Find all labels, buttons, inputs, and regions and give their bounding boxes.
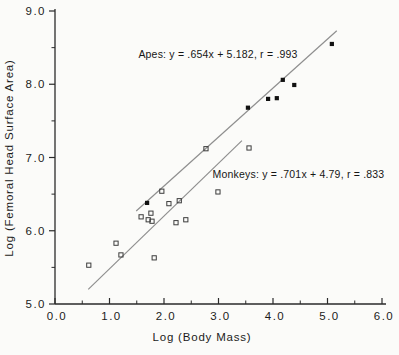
x-axis: 0.01.02.03.04.05.06.0 <box>47 298 395 322</box>
monkeys-data-point <box>149 211 153 215</box>
x-tick-label: 1.0 <box>101 310 122 322</box>
apes-data-point <box>330 42 334 46</box>
data-points <box>87 42 334 267</box>
apes-data-point <box>292 83 296 87</box>
x-tick-label: 6.0 <box>374 310 395 322</box>
x-tick-label: 2.0 <box>156 310 177 322</box>
scatter-plot: 5.06.07.08.09.0 0.01.02.03.04.05.06.0 Ap… <box>0 0 399 355</box>
x-tick-label: 0.0 <box>47 310 68 322</box>
monkeys-data-point <box>87 263 91 267</box>
y-tick-label: 9.0 <box>26 5 47 17</box>
y-tick-label: 8.0 <box>26 78 47 90</box>
monkeys-equation-label: Monkeys: y = .701x + 4.79, r = .833 <box>213 168 385 180</box>
apes-data-point <box>246 106 250 110</box>
monkeys-data-point <box>174 221 178 225</box>
y-tick-label: 5.0 <box>26 298 47 310</box>
x-tick-label: 4.0 <box>265 310 286 322</box>
regression-lines <box>88 31 337 290</box>
monkeys-data-point <box>139 215 143 219</box>
y-tick-label: 7.0 <box>26 152 47 164</box>
y-axis: 5.06.07.08.09.0 <box>26 5 56 310</box>
x-tick-label: 5.0 <box>319 310 340 322</box>
apes-data-point <box>145 201 149 205</box>
apes-data-point <box>275 96 279 100</box>
monkeys-data-point <box>184 218 188 222</box>
monkeys-data-point <box>216 190 220 194</box>
monkeys-data-point <box>152 256 156 260</box>
apes-equation-label: Apes: y = .654x + 5.182, r = .993 <box>138 48 297 60</box>
apes-data-point <box>281 78 285 82</box>
y-axis-title: Log (Femoral Head Surface Area) <box>3 59 15 256</box>
monkeys-data-point <box>247 146 251 150</box>
y-tick-label: 6.0 <box>26 225 47 237</box>
monkeys-data-point <box>114 241 118 245</box>
apes-data-point <box>266 97 270 101</box>
x-axis-title: Log (Body Mass) <box>153 331 252 343</box>
monkeys-fit-line <box>88 141 242 290</box>
equation-annotations: Apes: y = .654x + 5.182, r = .993Monkeys… <box>138 48 384 180</box>
x-tick-label: 3.0 <box>210 310 231 322</box>
monkeys-data-point <box>167 202 171 206</box>
scatter-figure: 5.06.07.08.09.0 0.01.02.03.04.05.06.0 Ap… <box>0 0 399 355</box>
